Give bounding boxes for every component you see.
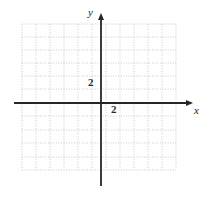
x-axis-line: [14, 100, 193, 106]
x-axis-tick-label-2: 2: [111, 104, 117, 115]
y-axis-tick-label-2: 2: [88, 77, 94, 88]
x-axis-label: x: [194, 105, 199, 116]
grid-and-axes: [0, 0, 206, 199]
coordinate-plane-figure: y x 2 2: [0, 0, 206, 199]
y-axis-label: y: [88, 7, 93, 18]
grid-lines-horizontal: [22, 24, 176, 170]
y-axis-line: [98, 13, 104, 186]
grid-lines-vertical: [22, 24, 176, 170]
